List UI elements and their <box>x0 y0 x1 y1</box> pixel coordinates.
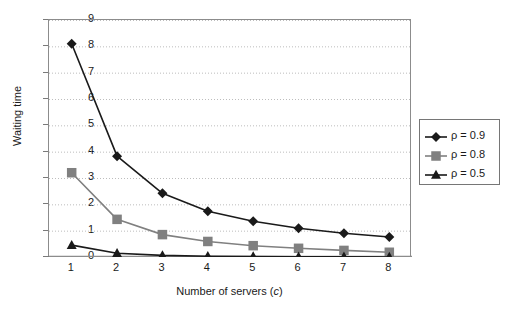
legend-swatch-canvas-1 <box>424 150 448 162</box>
data-point-s1-x4 <box>203 237 213 247</box>
legend-marker-triangle-icon <box>424 167 448 179</box>
legend-swatch-canvas-2 <box>424 169 448 181</box>
x-tick-label-5: 5 <box>242 262 262 273</box>
data-point-s0-x1 <box>67 39 77 49</box>
data-point-s1-x3 <box>158 230 168 240</box>
data-point-s0-x8 <box>384 232 394 242</box>
legend-point-1 <box>431 151 441 161</box>
data-point-s1-x2 <box>112 215 122 225</box>
x-axis-title: Number of servers (c) <box>48 285 411 297</box>
x-tick-label-8: 8 <box>378 262 398 273</box>
data-point-s1-x1 <box>67 168 77 178</box>
legend-label-1: ρ = 0.8 <box>451 148 485 160</box>
series-line-0 <box>72 44 390 237</box>
data-point-s0-x7 <box>339 228 349 238</box>
series-1 <box>67 168 394 257</box>
legend-swatch-canvas-0 <box>424 131 448 143</box>
series-0 <box>67 39 395 242</box>
plot-canvas <box>49 20 412 257</box>
data-point-s0-x6 <box>294 223 304 233</box>
legend-item-1: ρ = 0.8 <box>424 144 495 163</box>
data-point-s1-x5 <box>248 241 258 251</box>
x-tick-label-3: 3 <box>151 262 171 273</box>
x-tick-label-2: 2 <box>106 262 126 273</box>
legend-point-0 <box>431 132 441 142</box>
legend: ρ = 0.9ρ = 0.8ρ = 0.5 <box>419 119 500 185</box>
x-tick-label-7: 7 <box>333 262 353 273</box>
legend-label-2: ρ = 0.5 <box>451 167 485 179</box>
x-axis-title-suffix: ) <box>279 285 283 297</box>
x-axis-title-prefix: Number of servers ( <box>176 285 273 297</box>
data-point-s0-x4 <box>203 206 213 216</box>
x-tick-label-4: 4 <box>197 262 217 273</box>
waiting-time-chart: 9876543210 Waiting time 12345678 Number … <box>0 0 508 319</box>
legend-marker-square-icon <box>424 148 448 160</box>
x-tick-label-1: 1 <box>61 262 81 273</box>
plot-area <box>48 19 411 256</box>
legend-label-0: ρ = 0.9 <box>451 129 485 141</box>
legend-item-2: ρ = 0.5 <box>424 163 495 182</box>
legend-item-0: ρ = 0.9 <box>424 125 495 144</box>
y-axis-title: Waiting time <box>11 61 23 171</box>
legend-marker-diamond-icon <box>424 129 448 141</box>
data-point-s2-x1 <box>67 240 77 249</box>
data-point-s0-x5 <box>248 216 258 226</box>
x-tick-label-6: 6 <box>288 262 308 273</box>
series-line-1 <box>72 173 390 253</box>
